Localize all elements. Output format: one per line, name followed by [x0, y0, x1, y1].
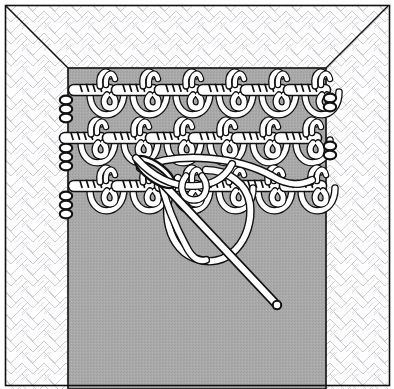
needle-tip	[273, 301, 281, 309]
illustration-canvas: Crochet edging worked along the edge of …	[0, 0, 394, 389]
left-edge-chain	[60, 96, 72, 219]
crochet-edging-diagram	[0, 0, 394, 389]
